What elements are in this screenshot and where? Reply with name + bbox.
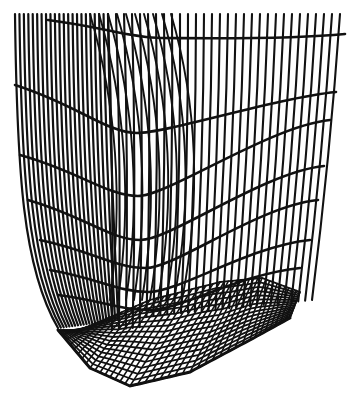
surface-plot	[0, 0, 356, 396]
wireframe-surface-figure	[0, 0, 356, 396]
